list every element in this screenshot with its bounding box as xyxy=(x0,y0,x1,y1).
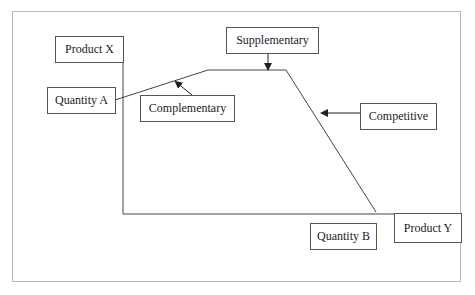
relationship-curve xyxy=(115,70,376,212)
quantity-a-label: Quantity A xyxy=(47,87,116,114)
quantity-b-label: Quantity B xyxy=(310,223,377,250)
product-y-label: Product Y xyxy=(394,213,462,243)
complementary-label: Complementary xyxy=(140,95,235,122)
competitive-label: Competitive xyxy=(360,103,437,130)
supplementary-label: Supplementary xyxy=(226,27,319,54)
product-x-label: Product X xyxy=(55,36,124,63)
complementary-arrow xyxy=(176,82,192,95)
